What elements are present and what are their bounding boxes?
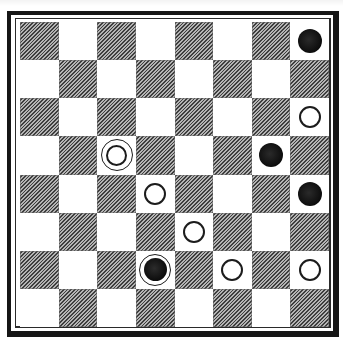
square-r7-c3[interactable] bbox=[136, 289, 175, 327]
square-r1-c6[interactable] bbox=[252, 60, 291, 98]
checkerboard bbox=[20, 22, 329, 327]
square-r3-c2[interactable] bbox=[97, 136, 136, 174]
page-edge-shading bbox=[0, 0, 343, 6]
square-r0-c5[interactable] bbox=[213, 22, 252, 60]
square-r4-c5[interactable] bbox=[213, 175, 252, 213]
square-r4-c1[interactable] bbox=[59, 175, 98, 213]
square-r3-c1[interactable] bbox=[59, 136, 98, 174]
square-r2-c7[interactable] bbox=[290, 98, 329, 136]
black-man-piece[interactable] bbox=[298, 29, 322, 53]
square-r4-c2[interactable] bbox=[97, 175, 136, 213]
square-r3-c3[interactable] bbox=[136, 136, 175, 174]
square-r2-c3[interactable] bbox=[136, 98, 175, 136]
square-r6-c3[interactable] bbox=[136, 251, 175, 289]
square-r6-c7[interactable] bbox=[290, 251, 329, 289]
square-r2-c2[interactable] bbox=[97, 98, 136, 136]
square-r6-c4[interactable] bbox=[175, 251, 214, 289]
square-r1-c5[interactable] bbox=[213, 60, 252, 98]
square-r0-c4[interactable] bbox=[175, 22, 214, 60]
square-r2-c0[interactable] bbox=[20, 98, 59, 136]
square-r1-c7[interactable] bbox=[290, 60, 329, 98]
black-man-piece[interactable] bbox=[298, 182, 322, 206]
white-king-piece[interactable] bbox=[101, 139, 133, 171]
square-r6-c5[interactable] bbox=[213, 251, 252, 289]
black-king-piece[interactable] bbox=[139, 254, 171, 286]
square-r7-c1[interactable] bbox=[59, 289, 98, 327]
square-r0-c3[interactable] bbox=[136, 22, 175, 60]
square-r1-c2[interactable] bbox=[97, 60, 136, 98]
square-r3-c0[interactable] bbox=[20, 136, 59, 174]
square-r2-c6[interactable] bbox=[252, 98, 291, 136]
square-r5-c0[interactable] bbox=[20, 213, 59, 251]
square-r0-c2[interactable] bbox=[97, 22, 136, 60]
king-crown-icon bbox=[106, 145, 127, 166]
square-r5-c2[interactable] bbox=[97, 213, 136, 251]
square-r3-c6[interactable] bbox=[252, 136, 291, 174]
square-r5-c3[interactable] bbox=[136, 213, 175, 251]
square-r3-c5[interactable] bbox=[213, 136, 252, 174]
square-r5-c4[interactable] bbox=[175, 213, 214, 251]
white-man-piece[interactable] bbox=[221, 259, 243, 281]
square-r5-c6[interactable] bbox=[252, 213, 291, 251]
square-r4-c4[interactable] bbox=[175, 175, 214, 213]
square-r6-c0[interactable] bbox=[20, 251, 59, 289]
square-r7-c7[interactable] bbox=[290, 289, 329, 327]
square-r2-c4[interactable] bbox=[175, 98, 214, 136]
square-r2-c5[interactable] bbox=[213, 98, 252, 136]
square-r3-c7[interactable] bbox=[290, 136, 329, 174]
square-r2-c1[interactable] bbox=[59, 98, 98, 136]
square-r1-c1[interactable] bbox=[59, 60, 98, 98]
square-r5-c1[interactable] bbox=[59, 213, 98, 251]
white-man-piece[interactable] bbox=[299, 106, 321, 128]
white-man-piece[interactable] bbox=[144, 183, 166, 205]
square-r4-c3[interactable] bbox=[136, 175, 175, 213]
square-r6-c2[interactable] bbox=[97, 251, 136, 289]
square-r7-c5[interactable] bbox=[213, 289, 252, 327]
white-man-piece[interactable] bbox=[183, 221, 205, 243]
square-r4-c0[interactable] bbox=[20, 175, 59, 213]
square-r6-c1[interactable] bbox=[59, 251, 98, 289]
square-r7-c6[interactable] bbox=[252, 289, 291, 327]
square-r7-c4[interactable] bbox=[175, 289, 214, 327]
square-r4-c6[interactable] bbox=[252, 175, 291, 213]
square-r7-c0[interactable] bbox=[20, 289, 59, 327]
black-man-piece[interactable] bbox=[259, 143, 283, 167]
square-r7-c2[interactable] bbox=[97, 289, 136, 327]
square-r4-c7[interactable] bbox=[290, 175, 329, 213]
square-r3-c4[interactable] bbox=[175, 136, 214, 174]
square-r1-c0[interactable] bbox=[20, 60, 59, 98]
square-r0-c7[interactable] bbox=[290, 22, 329, 60]
white-man-piece[interactable] bbox=[299, 259, 321, 281]
square-r6-c6[interactable] bbox=[252, 251, 291, 289]
square-r1-c4[interactable] bbox=[175, 60, 214, 98]
king-crown-icon bbox=[144, 258, 167, 281]
square-r5-c5[interactable] bbox=[213, 213, 252, 251]
square-r0-c6[interactable] bbox=[252, 22, 291, 60]
square-r0-c0[interactable] bbox=[20, 22, 59, 60]
square-r1-c3[interactable] bbox=[136, 60, 175, 98]
square-r5-c7[interactable] bbox=[290, 213, 329, 251]
square-r0-c1[interactable] bbox=[59, 22, 98, 60]
